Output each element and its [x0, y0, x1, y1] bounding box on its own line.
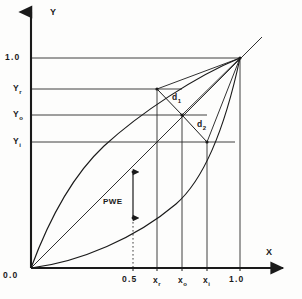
figure-canvas: Y X 0.0 1.0 Yr Yo Yi 0.5 xr xo xi 1.0 d1… [0, 0, 302, 299]
x-tick-label-4-sub: i [208, 281, 210, 287]
pwe-label: PWE [103, 198, 122, 206]
d1-label-sub: 1 [178, 98, 182, 104]
point-Po [180, 113, 183, 116]
x-tick-label-3: xo [178, 276, 187, 287]
x-tick-label-5: 1.0 [229, 275, 244, 284]
diagonal-reference-line [31, 37, 262, 268]
y-tick-label-1: 1.0 [5, 53, 20, 62]
y-tick-label-2: Yr [13, 84, 22, 95]
pwe-top-node [132, 171, 135, 174]
d1-label: d1 [172, 93, 182, 104]
y-tick-label-3: Yo [13, 110, 23, 121]
point-Pr [155, 87, 158, 90]
x-tick-label-2-sub: r [158, 281, 160, 287]
d2-label-sub: 2 [203, 125, 207, 131]
y-tick-label-2-sub: r [19, 89, 21, 95]
y-tick-label-3-sub: o [19, 115, 23, 121]
y-tick-label-4-sub: i [19, 142, 21, 148]
chord-corner-to-Pr [157, 58, 240, 89]
x-axis-label: X [266, 248, 273, 257]
d2-label: d2 [197, 120, 207, 131]
y-tick-label-4: Yi [13, 137, 21, 148]
x-tick-label-3-sub: o [183, 281, 187, 287]
point-corner [238, 56, 241, 59]
x-tick-label-2: xr [153, 276, 161, 287]
origin-label: 0.0 [3, 271, 18, 280]
chord-corner-to-Po [182, 58, 240, 115]
y-axis-label: Y [50, 8, 57, 17]
pwe-bottom-node [132, 217, 135, 220]
point-Pi [205, 140, 208, 143]
x-tick-label-4: xi [203, 276, 210, 287]
horizontal-gridlines [31, 58, 240, 142]
x-tick-label-1: 0.5 [122, 275, 137, 284]
plot-area [0, 0, 302, 299]
